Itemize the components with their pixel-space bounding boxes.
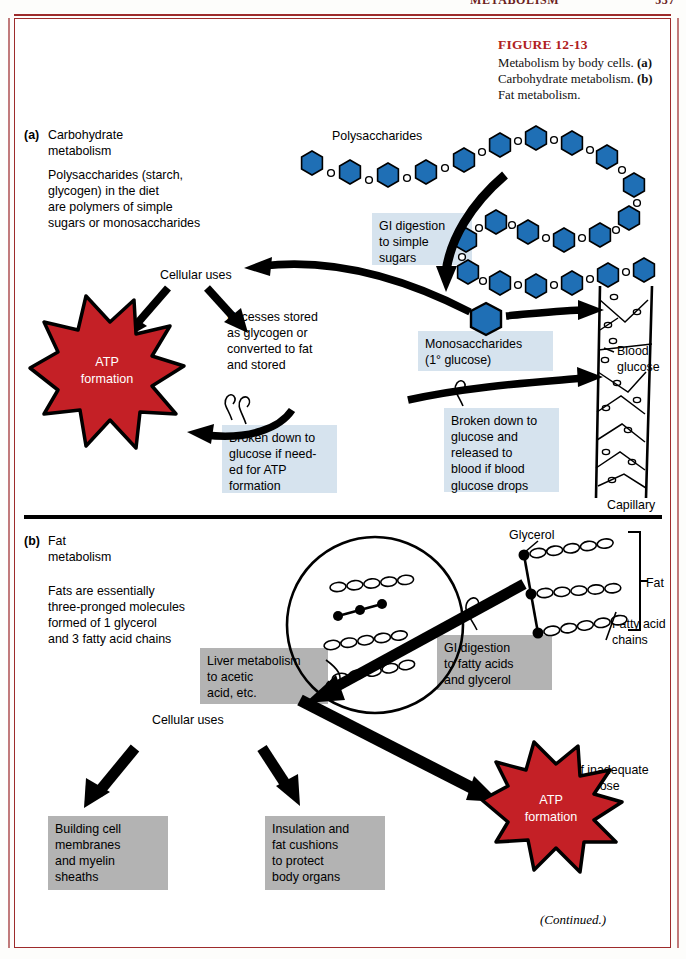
- panel-a-intro: Polysaccharides (starch, glycogen) in th…: [48, 168, 263, 232]
- gi-digestion-fat-box: GI digestion to fatty acids and glycerol: [437, 635, 552, 690]
- caption-line-4: metabolism.: [518, 88, 581, 102]
- running-head: METABOLISM 537: [470, 0, 675, 9]
- broken-down-blood-box: Broken down to glucose and released to b…: [444, 408, 559, 492]
- frame-right-rule: [677, 18, 679, 948]
- broken-down-atp-box: Broken down to glucose if need- ed for A…: [222, 425, 337, 493]
- panel-divider: [24, 515, 662, 519]
- excesses-stored-label: Excesses stored as glycogen or converted…: [227, 310, 352, 374]
- page-number: 537: [655, 0, 675, 9]
- header-rule: [14, 14, 671, 16]
- panel-a-heading: Carbohydrate metabolism: [48, 128, 218, 160]
- frame-left-rule: [8, 18, 10, 948]
- caption-line-2-pre: cells.: [607, 56, 637, 70]
- blood-glucose-label: Blood glucose: [617, 344, 682, 376]
- continued-note: (Continued.): [540, 912, 606, 928]
- cellular-uses-a-label: Cellular uses: [160, 268, 232, 284]
- fat-label: Fat: [646, 576, 664, 592]
- polysaccharides-label: Polysaccharides: [332, 129, 422, 145]
- cellular-uses-b-label: Cellular uses: [152, 713, 224, 729]
- figure-page: METABOLISM 537 FIGURE 12-13 Metabolism b…: [0, 0, 686, 959]
- fatty-acid-chains-label: Fatty acid chains: [612, 617, 684, 649]
- monosaccharides-box: Monosaccharides (1° glucose): [418, 331, 553, 371]
- panel-b-heading: Fat metabolism: [48, 534, 208, 566]
- panel-b-intro: Fats are essentially three-pronged molec…: [48, 584, 263, 648]
- caption-label-a: (a): [637, 56, 652, 70]
- insulation-box: Insulation and fat cushions to protect b…: [265, 816, 385, 890]
- caption-line-3-pre: metabolism.: [571, 72, 637, 86]
- figure-number: FIGURE 12-13: [498, 37, 668, 53]
- liver-metabolism-box: Liver metabolism to acetic acid, etc.: [200, 648, 328, 704]
- figure-caption-text: Metabolism by body cells. (a) Carbohydra…: [498, 55, 668, 103]
- capillary-label: Capillary: [607, 498, 655, 514]
- panel-b-key: (b): [24, 534, 40, 548]
- caption-label-b: (b): [637, 72, 653, 86]
- panel-a-key: (a): [24, 128, 39, 142]
- figure-caption: FIGURE 12-13 Metabolism by body cells. (…: [498, 37, 668, 103]
- caption-line-3-post: Fat: [498, 88, 514, 102]
- caption-line-1: Metabolism by body: [498, 56, 604, 70]
- running-head-title: METABOLISM: [470, 0, 559, 9]
- if-inadequate-glucose-label: If inadequate glucose: [577, 763, 677, 795]
- caption-line-2-post: Carbohydrate: [498, 72, 568, 86]
- building-cell-box: Building cell membranes and myelin sheat…: [48, 816, 168, 890]
- gi-digestion-sugars-box: GI digestion to simple sugars: [372, 213, 472, 265]
- glycerol-label: Glycerol: [509, 528, 554, 544]
